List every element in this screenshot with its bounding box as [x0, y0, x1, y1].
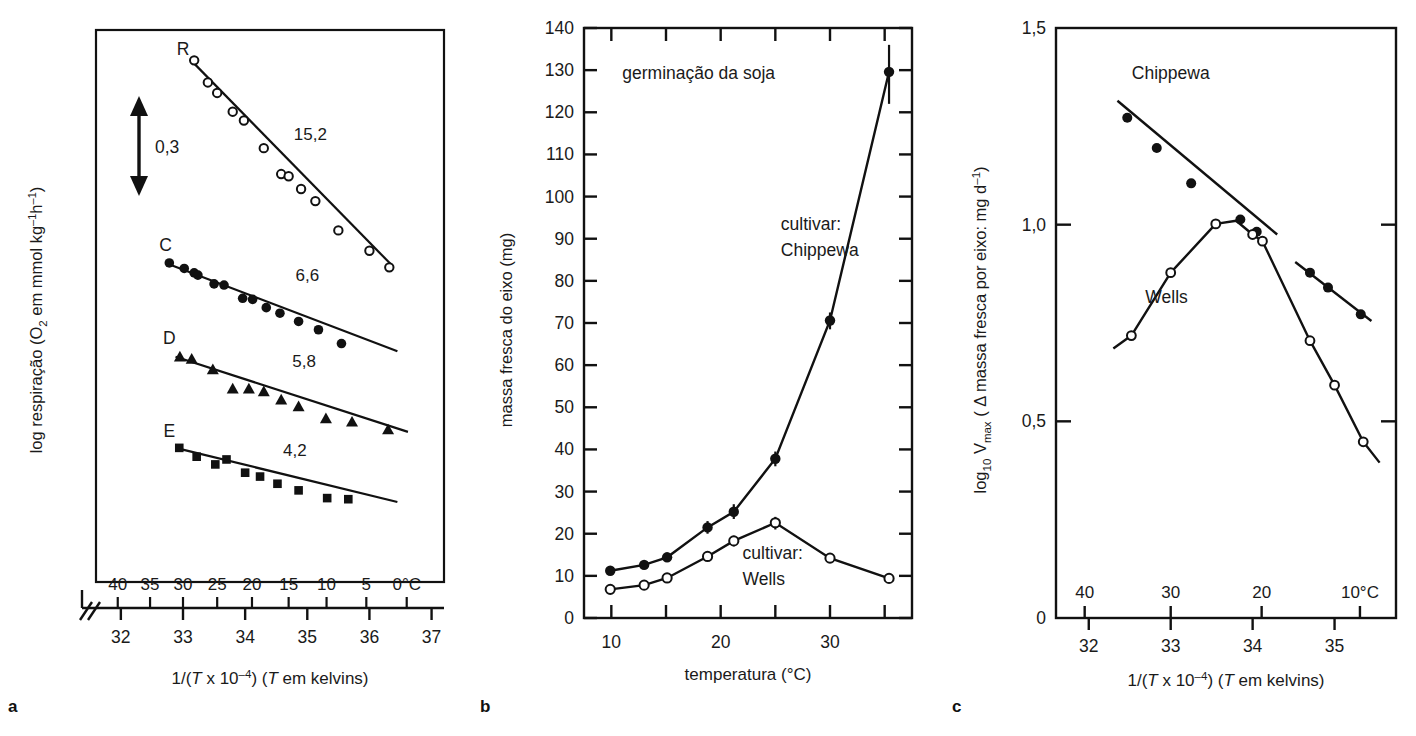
data-point-Wells	[1248, 230, 1257, 239]
data-point-D	[382, 424, 394, 435]
data-point-R	[311, 197, 319, 205]
data-point-Chippewa	[662, 552, 672, 562]
data-point-Chippewa	[605, 566, 615, 576]
celsius-tick-label-2: 30	[174, 575, 193, 594]
y-tick-label-8: 80	[555, 271, 575, 291]
celsius-tick-label-0: 40	[1075, 583, 1094, 602]
celsius-tick-label-4: 20	[243, 575, 262, 594]
line-Chippewa	[610, 72, 889, 571]
scale-bar-label: 0,3	[155, 137, 179, 157]
series-label-R: R	[177, 39, 190, 59]
series-D: D5,8	[163, 328, 408, 435]
panel-a-x-axis-label: 1/(T x 10–4) (T em kelvins)	[171, 668, 368, 688]
series-label-Chippewa: Chippewa	[1132, 63, 1210, 83]
invT-tick-label-2: 34	[1243, 636, 1263, 656]
data-point-E	[273, 479, 282, 488]
data-point-D	[207, 363, 219, 374]
y-tick-label-14: 140	[545, 18, 574, 38]
panel-a-scale-bar: 0,3	[130, 96, 179, 196]
panel-letter-a: a	[8, 697, 18, 716]
y-tick-label-13: 130	[545, 60, 574, 80]
series-Wells: Wells	[1113, 219, 1379, 462]
data-point-E	[256, 472, 265, 481]
celsius-tick-label-3: 10°C	[1341, 583, 1379, 602]
data-point-D	[346, 416, 358, 427]
celsius-tick-label-5: 15	[279, 575, 298, 594]
data-point-R	[229, 107, 237, 115]
series-value-E: 4,2	[283, 441, 307, 460]
panel-b-plot-frame	[584, 28, 912, 618]
data-point-Chippewa	[1152, 143, 1162, 153]
data-point-R	[284, 172, 292, 180]
data-point-R	[260, 144, 268, 152]
series-label-D: D	[163, 328, 176, 348]
celsius-tick-label-6: 10	[317, 575, 336, 594]
data-point-Wells	[771, 518, 780, 527]
data-point-D	[275, 394, 287, 405]
fit-line-Chippewa-0	[1117, 101, 1277, 235]
data-point-E	[192, 452, 201, 461]
curve-Wells	[1113, 221, 1379, 463]
panel-a-y-label-text: log respiração (O2 em mmol kg–1h–1)	[26, 187, 49, 454]
data-point-C	[219, 280, 229, 290]
invT-tick-label-3: 35	[298, 627, 317, 647]
y-tick-label-2: 1,0	[1022, 215, 1047, 235]
data-point-Wells	[1258, 237, 1267, 246]
invT-tick-label-0: 32	[1079, 636, 1098, 656]
data-point-Wells	[703, 552, 712, 561]
data-point-Wells	[640, 581, 649, 590]
data-point-Chippewa	[1186, 178, 1196, 188]
panel-c-plot-frame	[1056, 28, 1396, 618]
panel-a-y-axis-label: log respiração (O2 em mmol kg–1h–1)	[26, 187, 49, 454]
x-tick-label-2: 30	[820, 632, 840, 652]
data-point-E	[222, 455, 231, 464]
data-point-R	[297, 185, 305, 193]
celsius-tick-label-1: 30	[1161, 583, 1180, 602]
data-point-C	[337, 339, 347, 349]
y-tick-label-12: 120	[545, 102, 574, 122]
invT-tick-label-4: 36	[360, 627, 379, 647]
data-point-C	[165, 258, 175, 268]
y-tick-label-2: 20	[555, 524, 575, 544]
data-point-R	[365, 247, 373, 255]
panel-c-x-label-text: 1/(T x 10–4) (T em kelvins)	[1127, 670, 1324, 690]
x-tick-label-0: 10	[602, 632, 622, 652]
annotation-chippewa-line2: Chippewa	[781, 240, 859, 260]
panel-c-series-group: ChippewaWells	[1113, 63, 1379, 463]
invT-tick-label-0: 32	[111, 627, 130, 647]
data-point-Wells	[1166, 268, 1175, 277]
invT-tick-label-2: 34	[235, 627, 255, 647]
series-value-C: 6,6	[295, 266, 319, 285]
panel-c-plot: log10 Vmax ( Δ massa fresca por eixo: mg…	[944, 0, 1416, 736]
data-point-C	[193, 270, 203, 280]
data-point-D	[293, 400, 305, 411]
panel-c-y-axis-label: log10 Vmax ( Δ massa fresca por eixo: mg…	[970, 166, 993, 493]
data-point-E	[211, 460, 220, 469]
data-point-R	[213, 89, 221, 97]
data-point-Wells	[1330, 381, 1339, 390]
annotation-wells-line2: Wells	[743, 569, 786, 589]
data-point-C	[238, 293, 248, 303]
series-label-C: C	[159, 235, 172, 255]
data-point-Wells	[1359, 437, 1368, 446]
data-point-D	[174, 351, 186, 362]
data-point-Wells	[606, 585, 615, 594]
y-tick-label-11: 110	[546, 144, 574, 164]
series-C: C6,6	[159, 235, 397, 351]
scale-bar-arrow-up	[130, 96, 148, 116]
panel-c-x-axis-label: 1/(T x 10–4) (T em kelvins)	[1127, 670, 1324, 690]
series-E: E4,2	[163, 421, 397, 503]
celsius-tick-label-0: 40	[108, 575, 127, 594]
panel-c-y-label-text: log10 Vmax ( Δ massa fresca por eixo: mg…	[970, 166, 993, 493]
data-point-Chippewa	[639, 560, 649, 570]
x-tick-label-1: 20	[711, 632, 731, 652]
panel-a-series-group: R15,2C6,6D5,8E4,2	[159, 39, 408, 504]
data-point-R	[190, 56, 198, 64]
panel-b-title: germinação da soja	[622, 63, 775, 83]
invT-tick-label-1: 33	[173, 627, 192, 647]
y-tick-label-9: 90	[555, 229, 575, 249]
data-point-C	[179, 264, 189, 274]
data-point-Chippewa	[702, 522, 712, 532]
y-tick-label-10: 100	[545, 187, 574, 207]
y-tick-label-3: 1,5	[1022, 18, 1046, 38]
